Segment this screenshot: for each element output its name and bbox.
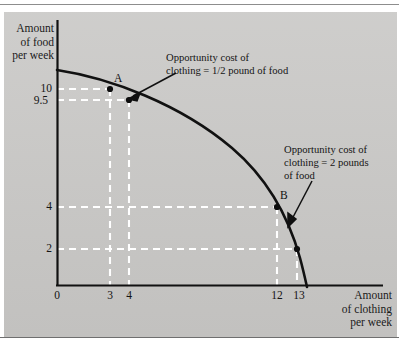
x-tick-12: 12 [266, 289, 288, 301]
point-label-a: A [114, 72, 122, 84]
point-label-b: B [280, 189, 288, 201]
x-axis-label: Amount of clothing per week [300, 289, 392, 330]
annotation-opportunity-cost-b: Opportunity cost of clothing = 2 pounds … [284, 143, 369, 183]
x-tick-3: 3 [101, 289, 119, 301]
y-tick-4: 4 [26, 200, 52, 212]
arrow-head-a [128, 93, 140, 101]
ppf-curve [57, 70, 307, 287]
x-tick-4: 4 [120, 289, 138, 301]
data-points [107, 86, 300, 252]
point-a[interactable] [107, 86, 113, 92]
x-tick-0: 0 [48, 289, 66, 301]
arrow-line-b [291, 181, 312, 221]
guide-lines [57, 89, 297, 285]
y-tick-10: 10 [26, 82, 52, 94]
y-axis-label: Amount of food per week [6, 22, 54, 63]
point-b[interactable] [274, 204, 280, 210]
point-b2[interactable] [294, 246, 300, 252]
y-tick-9-5: 9.5 [22, 94, 48, 106]
y-tick-2: 2 [26, 242, 52, 254]
annotation-opportunity-cost-a: Opportunity cost of clothing = 1/2 pound… [166, 51, 288, 77]
figure-root: Amount of food per week Amount of clothi… [0, 0, 399, 342]
x-tick-13: 13 [288, 289, 310, 301]
